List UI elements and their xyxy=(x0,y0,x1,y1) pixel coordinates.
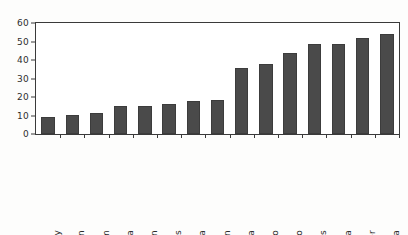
bar xyxy=(332,44,346,134)
bar-slot xyxy=(114,23,128,134)
bar xyxy=(356,38,370,134)
y-axis-tick-label: 30 xyxy=(17,74,29,84)
bar xyxy=(211,100,225,134)
x-axis-tick-label: Kenya xyxy=(391,230,401,235)
x-axis-tick-label: Canada xyxy=(125,230,135,235)
bar-slot xyxy=(308,23,322,134)
x-axis-tick-label: Morocco xyxy=(294,230,304,235)
y-axis-tick-label: 40 xyxy=(17,55,29,65)
y-axis-tick-label: 50 xyxy=(17,37,29,47)
bar xyxy=(162,104,176,134)
bar-slot xyxy=(90,23,104,134)
bars-container xyxy=(36,23,399,134)
bar-slot xyxy=(380,23,394,134)
bar-slot xyxy=(211,23,225,134)
x-axis-tick-label: Nicaragua xyxy=(343,230,353,235)
x-axis-tick-label: Mexico xyxy=(270,230,280,235)
x-axis-tick-label: Honduras xyxy=(318,230,328,235)
bar xyxy=(259,64,273,134)
bar-slot xyxy=(41,23,55,134)
bar xyxy=(41,117,55,134)
bar-slot xyxy=(235,23,249,134)
bar xyxy=(90,113,104,134)
bar xyxy=(187,101,201,134)
x-axis-tick-label: West Germany xyxy=(52,230,62,235)
x-axis-tick-label: United Kingdom xyxy=(101,230,111,235)
x-axis-tick-label: United States xyxy=(173,230,183,235)
y-axis-tick-label: 60 xyxy=(17,18,29,28)
y-axis-tick-label: 10 xyxy=(17,111,29,121)
bar xyxy=(138,106,152,134)
bar xyxy=(380,34,394,134)
x-axis-tick-label: China xyxy=(197,230,207,235)
bar-slot xyxy=(162,23,176,134)
bar xyxy=(283,53,297,134)
y-axis-tick-label: 0 xyxy=(23,129,29,139)
bar xyxy=(66,115,80,134)
bar xyxy=(235,68,249,134)
bar-slot xyxy=(138,23,152,134)
y-axis-tick-label: 20 xyxy=(17,92,29,102)
x-axis-labels: West GermanySwedenUnited KingdomCanadaJa… xyxy=(36,138,399,233)
x-axis-tick-label: Indonesia xyxy=(246,230,256,235)
bar-slot xyxy=(356,23,370,134)
bar-slot xyxy=(187,23,201,134)
bar xyxy=(308,44,322,134)
x-axis-tick-label: Japan xyxy=(149,230,159,235)
x-axis-tickmark xyxy=(399,134,400,138)
bar-slot xyxy=(283,23,297,134)
bar xyxy=(114,106,128,134)
x-axis-tick-label: Niger xyxy=(367,230,377,235)
x-axis-tick-label: Soviet Union xyxy=(222,230,232,235)
y-axis: 6050403020100 xyxy=(0,22,35,135)
bar-slot xyxy=(332,23,346,134)
x-axis-tick-label: Sweden xyxy=(76,230,86,235)
bar-slot xyxy=(259,23,273,134)
bar-slot xyxy=(66,23,80,134)
bar-chart: 6050403020100 West GermanySwedenUnited K… xyxy=(0,0,408,235)
